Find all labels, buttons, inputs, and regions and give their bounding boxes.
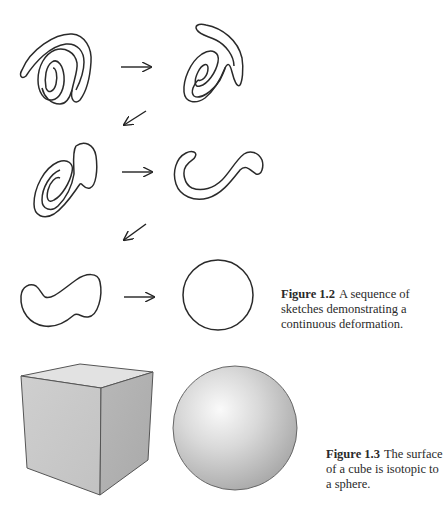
cube [21,364,153,495]
circle-sketch [183,260,253,330]
arrow-diagonal-2 [124,224,146,240]
figure-1-2-label: Figure 1.2 [281,287,335,301]
figure-1-2-caption: Figure 1.2A sequence of sketches demonst… [281,287,446,332]
figure-1-3-caption: Figure 1.3The surface of a cube is isoto… [326,447,447,492]
double-spiral-sketch [21,34,92,104]
arrow-diagonal-1 [124,111,146,125]
cube-top-face [21,364,153,388]
cube-front-face [21,376,101,495]
figure-1-3-label: Figure 1.3 [326,447,380,461]
curled-loop-sketch [34,143,97,217]
kidney-blob-sketch [21,275,101,327]
hook-shape-sketch [174,152,262,200]
spiral-with-tail-sketch [184,24,243,101]
sphere [173,366,297,490]
cube-side-face [100,372,153,495]
